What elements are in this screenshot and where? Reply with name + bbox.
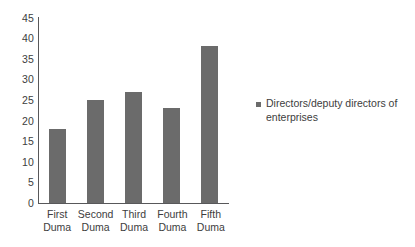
x-axis-tick-label: SecondDuma xyxy=(76,206,114,246)
bar xyxy=(201,46,218,203)
x-axis-tick-label-line: Duma xyxy=(76,221,114,234)
x-axis-tick-label-line: Fourth xyxy=(153,208,191,221)
x-axis-tick-label-line: Duma xyxy=(192,221,230,234)
chart-legend: Directors/deputy directors of enterprise… xyxy=(256,97,408,124)
x-axis-tick-labels: FirstDumaSecondDumaThirdDumaFourthDumaFi… xyxy=(38,206,230,246)
bar xyxy=(49,129,66,203)
x-axis-tick-label-line: Third xyxy=(115,208,153,221)
bar-chart-figure: 454035302520151050 FirstDumaSecondDumaTh… xyxy=(0,0,415,247)
x-axis-tick-label-line: Second xyxy=(76,208,114,221)
bar xyxy=(87,100,104,203)
x-axis-tick-label: ThirdDuma xyxy=(115,206,153,246)
x-axis-tick-label: FifthDuma xyxy=(192,206,230,246)
x-axis-tick-label-line: First xyxy=(38,208,76,221)
x-axis-tick-label: FourthDuma xyxy=(153,206,191,246)
x-axis-tick-label: FirstDuma xyxy=(38,206,76,246)
bar xyxy=(163,108,180,203)
bar xyxy=(125,92,142,203)
x-axis-tick-label-line: Fifth xyxy=(192,208,230,221)
x-axis-tick-label-line: Duma xyxy=(115,221,153,234)
legend-item-label: Directors/deputy directors of enterprise… xyxy=(266,97,404,124)
legend-color-swatch xyxy=(256,102,261,107)
x-axis-tick-label-line: Duma xyxy=(38,221,76,234)
x-axis-tick-label-line: Duma xyxy=(153,221,191,234)
